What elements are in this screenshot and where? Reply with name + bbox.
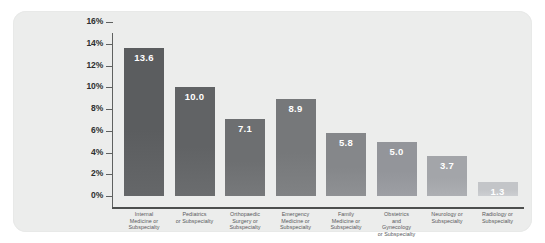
bar: 10.0 bbox=[175, 87, 215, 196]
x-axis-label-line: Orthopaedic bbox=[220, 211, 270, 218]
x-axis-label-line: Neurology or bbox=[422, 211, 472, 218]
x-axis-label-line: Emergency bbox=[271, 211, 321, 218]
y-axis-tick-label: 10% bbox=[87, 81, 103, 91]
y-axis-tick-label: 0% bbox=[91, 190, 103, 200]
x-axis-category-label: InternalMedicine orSubspecialty bbox=[119, 211, 169, 231]
x-axis-label-line: Family bbox=[321, 211, 371, 218]
x-axis-label-line: Pediatrics bbox=[170, 211, 220, 218]
x-axis-label-line: and bbox=[372, 218, 422, 225]
bar: 1.3 bbox=[478, 182, 518, 196]
y-axis-tick-mark bbox=[106, 109, 113, 110]
y-axis-tick-mark bbox=[106, 131, 113, 132]
y-axis-tick-mark bbox=[106, 66, 113, 67]
x-axis-label-line: Medicine or bbox=[271, 218, 321, 225]
bar-value-label: 5.0 bbox=[377, 146, 417, 157]
bar-value-label: 10.0 bbox=[175, 91, 215, 102]
x-axis-label-line: Surgery or bbox=[220, 218, 270, 225]
x-axis-label-line: Subspecialty bbox=[422, 218, 472, 225]
y-axis-tick-label: 2% bbox=[91, 168, 103, 178]
y-axis-tick-mark bbox=[106, 22, 113, 23]
x-axis-category-label: ObstetricsandGynecologyor Subspecialty bbox=[372, 211, 422, 237]
x-axis-label-line: Gynecology bbox=[372, 224, 422, 231]
bar-value-label: 1.3 bbox=[478, 186, 518, 197]
x-axis-label-line: Subspecialty bbox=[271, 224, 321, 231]
x-axis-label-line: or Subspecialty bbox=[170, 218, 220, 225]
bar: 3.7 bbox=[427, 156, 467, 196]
x-axis-category-label: EmergencyMedicine orSubspecialty bbox=[271, 211, 321, 231]
x-axis-label-line: Subspecialty bbox=[220, 224, 270, 231]
x-axis-line bbox=[112, 207, 524, 209]
y-axis-tick-mark bbox=[106, 153, 113, 154]
y-axis-line bbox=[112, 33, 113, 208]
y-axis-tick-label: 16% bbox=[87, 16, 103, 26]
y-axis-tick-label: 6% bbox=[91, 125, 103, 135]
bar: 8.9 bbox=[276, 99, 316, 196]
x-axis-label-line: Medicine or bbox=[321, 218, 371, 225]
bar-value-label: 3.7 bbox=[427, 160, 467, 171]
x-axis-label-line: Medicine or bbox=[119, 218, 169, 225]
y-axis-tick-label: 12% bbox=[87, 60, 103, 70]
y-axis-tick-label: 4% bbox=[91, 147, 103, 157]
bar: 7.1 bbox=[225, 119, 265, 196]
bar-value-label: 5.8 bbox=[326, 137, 366, 148]
x-axis-category-label: Neurology orSubspecialty bbox=[422, 211, 472, 224]
x-axis-category-label: OrthopaedicSurgery orSubspecialty bbox=[220, 211, 270, 231]
x-axis-label-line: Radiology or bbox=[473, 211, 523, 218]
x-axis-label-line: Obstetrics bbox=[372, 211, 422, 218]
y-axis-tick-label: 14% bbox=[87, 38, 103, 48]
y-axis-tick-mark bbox=[106, 87, 113, 88]
x-axis-category-label: FamilyMedicine orSubspecialty bbox=[321, 211, 371, 231]
y-axis-tick-mark bbox=[106, 196, 113, 197]
chart-screenshot: 16%14%12%10%8%6%4%2%0% 13.610.07.18.95.8… bbox=[0, 0, 545, 243]
bar-value-label: 8.9 bbox=[276, 103, 316, 114]
bar: 5.8 bbox=[326, 133, 366, 196]
x-axis-label-line: Subspecialty bbox=[473, 218, 523, 225]
bar: 13.6 bbox=[124, 48, 164, 196]
x-axis-label-line: or Subspecialty bbox=[372, 231, 422, 238]
chart-panel: 16%14%12%10%8%6%4%2%0% 13.610.07.18.95.8… bbox=[13, 11, 532, 232]
y-axis-tick-mark bbox=[106, 174, 113, 175]
x-axis-label-line: Subspecialty bbox=[321, 224, 371, 231]
bar: 5.0 bbox=[377, 142, 417, 196]
x-axis-category-label: Pediatricsor Subspecialty bbox=[170, 211, 220, 224]
bar-value-label: 7.1 bbox=[225, 123, 265, 134]
y-axis-tick-mark bbox=[106, 44, 113, 45]
x-axis-label-line: Subspecialty bbox=[119, 224, 169, 231]
y-axis-tick-label: 8% bbox=[91, 103, 103, 113]
x-axis-category-label: Radiology orSubspecialty bbox=[473, 211, 523, 224]
bar-value-label: 13.6 bbox=[124, 52, 164, 63]
x-axis-label-line: Internal bbox=[119, 211, 169, 218]
